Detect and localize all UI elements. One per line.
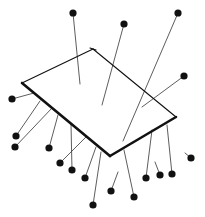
pin-shaft-8	[60, 137, 86, 163]
pin-head-icon	[11, 143, 18, 150]
pin-head-icon	[180, 72, 187, 79]
pin-head-icon	[130, 193, 137, 200]
pin-shaft-3	[142, 76, 184, 107]
pin-head-icon	[168, 170, 175, 177]
pin-head-icon	[81, 174, 88, 181]
sheet-edge-front-0	[22, 83, 110, 156]
pin-shaft-13	[124, 150, 134, 197]
pins-illustration: Ink illustration of a flat rectangular s…	[0, 0, 205, 217]
pin-head-icon	[120, 20, 127, 27]
sheet-edge-front-1	[110, 117, 176, 156]
pin-head-icon	[107, 187, 114, 194]
pin-shafts	[12, 13, 191, 205]
sheet-edge-back-right	[93, 49, 176, 117]
pin-head-icon	[69, 9, 76, 16]
pin-head-icon	[68, 166, 75, 173]
sheet-outline	[22, 48, 176, 156]
pin-head-icon	[89, 201, 96, 208]
pin-shaft-5	[16, 101, 40, 136]
pin-shaft-9	[71, 124, 72, 170]
pin-shaft-7	[49, 115, 58, 148]
pin-shaft-11	[93, 152, 101, 205]
pin-shaft-14	[146, 130, 152, 178]
pin-head-icon	[8, 95, 15, 102]
pin-shaft-1	[102, 24, 124, 105]
pin-head-icon	[187, 154, 194, 161]
pin-head-icon	[156, 171, 163, 178]
pin-head-icon	[174, 9, 181, 16]
pin-head-icon	[12, 132, 19, 139]
pin-shaft-10	[85, 147, 96, 178]
pin-shaft-0	[73, 13, 80, 84]
pin-head-icon	[56, 159, 63, 166]
pins-through-sheet-drawing	[0, 0, 205, 217]
pin-shaft-6	[15, 108, 52, 147]
pin-shaft-16	[167, 125, 172, 174]
sheet-edge-back-left	[22, 49, 93, 83]
pin-head-icon	[142, 174, 149, 181]
pin-head-icon	[45, 144, 52, 151]
